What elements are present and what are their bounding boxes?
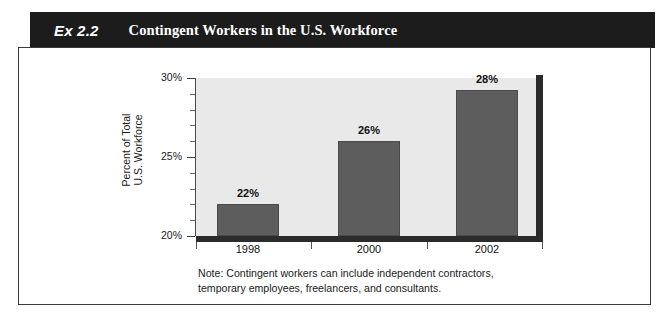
chart-note-line1: Note: Contingent workers can include ind…	[198, 266, 618, 281]
y-tick-minor-27	[190, 125, 195, 126]
bar-value-1998: 22%	[217, 188, 279, 199]
x-label-2002: 2002	[450, 244, 524, 255]
y-tick-20	[187, 236, 195, 237]
y-axis-title: Percent of Total U.S. Workforce	[118, 95, 146, 205]
y-tick-30	[187, 78, 195, 79]
x-tick-2	[427, 242, 428, 249]
y-tick-label-25: 25%	[148, 151, 182, 162]
bar-2000	[338, 141, 400, 236]
x-axis-baseline	[196, 236, 543, 242]
x-label-1998: 1998	[211, 244, 285, 255]
x-tick-start	[196, 242, 197, 249]
y-tick-minor-29	[190, 94, 195, 95]
y-tick-minor-21	[190, 220, 195, 221]
y-tick-minor-23	[190, 189, 195, 190]
exhibit-figure: Ex 2.2 Contingent Workers in the U.S. Wo…	[0, 0, 670, 330]
x-tick-end	[542, 242, 543, 249]
y-tick-minor-24	[190, 173, 195, 174]
bar-value-2000: 26%	[338, 125, 400, 136]
y-tick-label-30: 30%	[148, 72, 182, 83]
chart-note-line2: temporary employees, freelancers, and co…	[198, 281, 618, 296]
y-axis-title-line2: U.S. Workforce	[132, 115, 144, 186]
y-tick-minor-22	[190, 204, 195, 205]
bar-chart: Percent of Total U.S. Workforce 30% 25% …	[0, 0, 670, 330]
bar-value-2002: 28%	[456, 74, 518, 85]
y-tick-minor-26	[190, 141, 195, 142]
x-tick-1	[311, 242, 312, 249]
chart-note: Note: Contingent workers can include ind…	[198, 266, 618, 297]
y-tick-label-20: 20%	[148, 230, 182, 241]
plot-right-edge	[536, 75, 543, 238]
x-label-2000: 2000	[332, 244, 406, 255]
y-axis-line	[195, 78, 196, 236]
bar-1998	[217, 204, 279, 236]
y-axis-title-line1: Percent of Total	[120, 114, 132, 187]
y-tick-25	[187, 157, 195, 158]
y-tick-minor-28	[190, 110, 195, 111]
bar-2002	[456, 90, 518, 236]
